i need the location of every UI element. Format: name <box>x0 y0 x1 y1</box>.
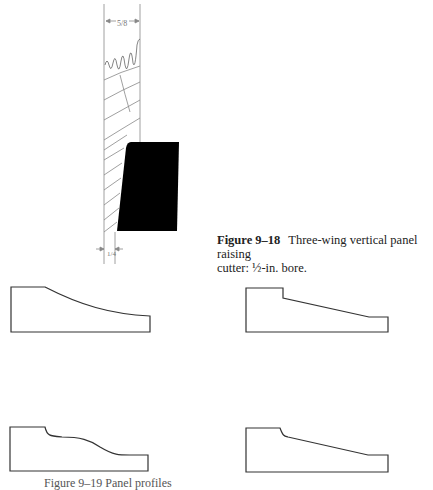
figure-title-line2: cutter: ½-in. bore. <box>217 261 307 275</box>
bottom-figure-caption: Figure 9–19 Panel profiles <box>44 477 172 489</box>
dimension-bottom-label: 1/4 <box>107 250 116 258</box>
figure-label: Figure 9–18 <box>217 233 280 247</box>
profile-top-left <box>11 287 150 332</box>
profile-bottom-left <box>10 427 148 471</box>
cutter-wing <box>117 142 179 231</box>
profile-bottom-right <box>246 428 388 472</box>
dimension-top-label: 5/8 <box>117 19 127 28</box>
figure-caption: Figure 9–18Three-wing vertical panel rai… <box>217 233 433 275</box>
profile-top-right <box>246 288 388 332</box>
